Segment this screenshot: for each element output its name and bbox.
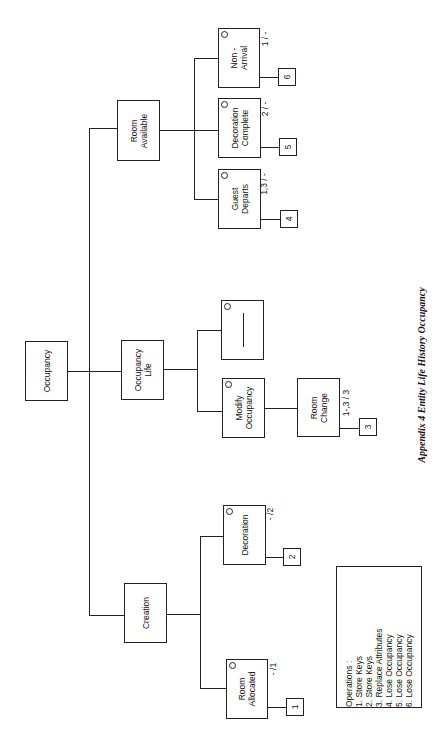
root-connector: [68, 371, 121, 372]
legend-item: 6. Lose Occupancy: [404, 567, 414, 707]
op-number: 5: [283, 145, 293, 150]
connector: [197, 330, 221, 331]
node-room-available: Room Available: [117, 100, 160, 161]
node-decoration-complete: Decoration Complete: [218, 98, 261, 158]
connector: [200, 688, 226, 689]
selection-circle-icon: [226, 508, 233, 515]
node-guest-departs: Guest Departs: [218, 169, 261, 229]
operation-box-3: 3: [359, 418, 377, 436]
node-null-option: [221, 300, 264, 360]
operations-legend: Operations : 1. Store Keys 2. Store Keys…: [336, 566, 422, 708]
legend-item: 5. Lose Occupancy: [394, 567, 404, 707]
op-number: 4: [284, 217, 294, 222]
legend-item: 1. Store Keys: [354, 567, 364, 707]
node-label: Occupancy: [42, 350, 52, 393]
room-available-child-spine: [194, 58, 195, 200]
legend-item: 4. Lose Occupancy: [384, 567, 394, 707]
connector: [194, 130, 218, 131]
legend-content: Operations : 1. Store Keys 2. Store Keys…: [344, 567, 414, 707]
selection-circle-icon: [221, 172, 228, 179]
op-number: 6: [282, 75, 292, 80]
occupancy-life-child-spine: [197, 330, 198, 411]
selection-circle-icon: [221, 101, 228, 108]
operation-box-2: 2: [283, 548, 301, 566]
connector: [265, 408, 297, 409]
legend-item: 2. Store Keys: [364, 567, 374, 707]
node-label: Modify Occupancy: [234, 387, 254, 430]
connector: [261, 147, 279, 148]
state-label-room-change: 1-,3 / 3: [341, 390, 351, 416]
operation-box-1: 1: [286, 698, 304, 716]
operation-box-4: 4: [280, 210, 298, 228]
operation-box-6: 6: [278, 68, 296, 86]
node-room-change: Room Change: [297, 378, 340, 437]
room-available-out: [160, 130, 194, 131]
node-label: Guest Departs: [230, 184, 250, 214]
node-decoration: Decoration: [223, 505, 266, 565]
op-number: 1: [290, 705, 300, 710]
state-label-decoration-complete: 2 / -: [260, 102, 270, 117]
connector: [268, 707, 286, 708]
node-label: Room Change: [309, 393, 329, 423]
connector: [197, 411, 222, 412]
state-label-non-arrival: 1 / -: [260, 32, 270, 47]
node-label: Decoration Complete: [230, 107, 250, 148]
connector: [260, 77, 278, 78]
connector: [194, 58, 218, 59]
selection-circle-icon: [224, 303, 231, 310]
creation-out: [167, 614, 200, 615]
node-label: Room Allocated: [237, 672, 257, 707]
room-available-connector: [89, 128, 117, 129]
occupancy-life-out: [164, 369, 197, 370]
op-number: 2: [287, 555, 297, 560]
operation-box-5: 5: [279, 138, 297, 156]
connector: [266, 557, 283, 558]
selection-circle-icon: [225, 381, 232, 388]
node-label: Non - Arrival: [229, 46, 249, 70]
node-room-allocated: Room Allocated: [226, 659, 268, 719]
node-label: Decoration: [240, 514, 250, 555]
node-occupancy-life: Occupancy Life: [121, 340, 164, 400]
creation-child-spine: [200, 536, 201, 689]
node-label: Occupancy Life: [133, 349, 153, 392]
figure-caption: Appendix 4 Entity Life History Occupancy: [416, 287, 427, 462]
node-occupancy: Occupancy: [25, 341, 68, 401]
creation-connector: [89, 615, 124, 616]
op-number: 3: [363, 425, 373, 430]
null-dash: [243, 313, 244, 347]
selection-circle-icon: [229, 662, 236, 669]
selection-circle-icon: [221, 31, 228, 38]
state-label-guest-departs: 1,3 / -: [259, 173, 269, 195]
node-label: Creation: [141, 597, 151, 629]
node-creation: Creation: [124, 583, 167, 643]
state-label-decoration: - /2: [265, 508, 275, 520]
connector: [261, 219, 280, 220]
node-label: Room Available: [129, 113, 149, 147]
connector: [340, 428, 359, 429]
node-non-arrival: Non - Arrival: [218, 28, 260, 88]
state-label-room-allocated: - /1: [268, 663, 278, 675]
connector: [200, 536, 223, 537]
connector: [194, 199, 218, 200]
node-modify-occupancy: Modify Occupancy: [222, 378, 265, 438]
legend-item: 3. Replace Attributes: [374, 567, 384, 707]
legend-title: Operations :: [344, 567, 354, 707]
